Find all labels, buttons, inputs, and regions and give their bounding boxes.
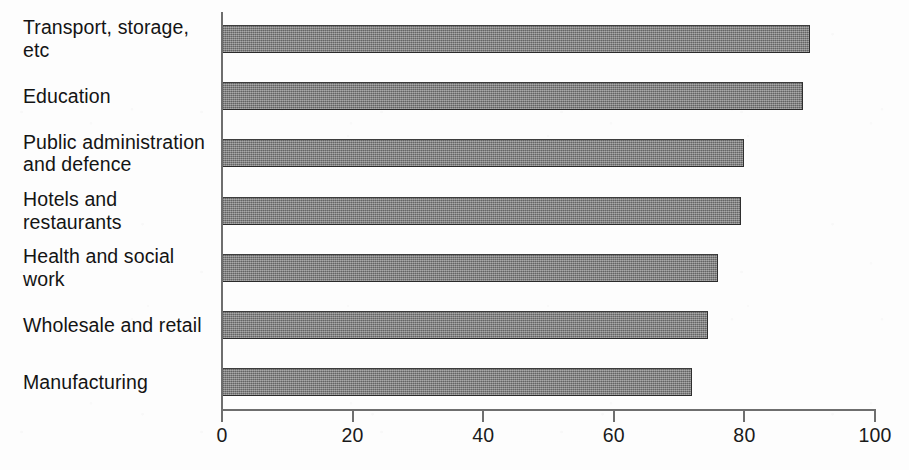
plot-area: Transport, storage, etc Education Public… [0,0,909,470]
category-label-wholesale-and-retail: Wholesale and retail [23,314,219,337]
bar-wholesale-and-retail [222,311,708,339]
x-axis-tick-label: 0 [216,424,227,447]
bar-hotels-and-restaurants [222,197,741,225]
x-axis-tick-label: 60 [603,424,625,447]
x-axis-tick [743,411,745,422]
x-axis-tick-label: 20 [342,424,364,447]
category-label-transport: Transport, storage, etc [23,16,219,62]
x-axis-tick [352,411,354,422]
x-axis-tick-label: 80 [733,424,755,447]
bar-education [222,82,803,110]
y-axis-line [221,12,223,411]
category-label-hotels-and-restaurants: Hotels and restaurants [23,188,219,234]
category-label-manufacturing: Manufacturing [23,371,219,394]
bar-health-and-social-work [222,254,718,282]
x-axis-line [221,409,876,411]
category-label-health-and-social-work: Health and social work [23,245,219,291]
x-axis-tick [221,411,223,422]
x-axis-tick-label: 100 [858,424,891,447]
x-axis-tick-label: 40 [472,424,494,447]
x-axis-tick [482,411,484,422]
bar-transport [222,25,810,53]
bar-public-administration-and-defence [222,139,744,167]
x-axis-tick [613,411,615,422]
x-axis-tick [874,411,876,422]
bar-chart: Transport, storage, etc Education Public… [0,0,909,470]
category-label-public-administration-and-defence: Public administration and defence [23,131,219,175]
category-label-education: Education [23,85,219,108]
bar-manufacturing [222,368,692,396]
